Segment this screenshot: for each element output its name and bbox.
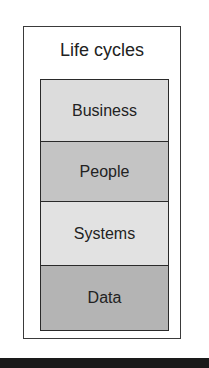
layer-label: Business: [72, 102, 137, 120]
layer-label: People: [80, 163, 130, 181]
layer-business: Business: [41, 80, 168, 142]
layer-data: Data: [41, 266, 168, 330]
life-cycle-layer-stack: Business People Systems Data: [40, 79, 169, 331]
diagram-title: Life cycles: [23, 40, 181, 61]
layer-people: People: [41, 142, 168, 202]
layer-label: Systems: [74, 225, 135, 243]
layer-systems: Systems: [41, 202, 168, 266]
layer-label: Data: [88, 289, 122, 307]
bottom-divider-bar: [0, 358, 209, 368]
